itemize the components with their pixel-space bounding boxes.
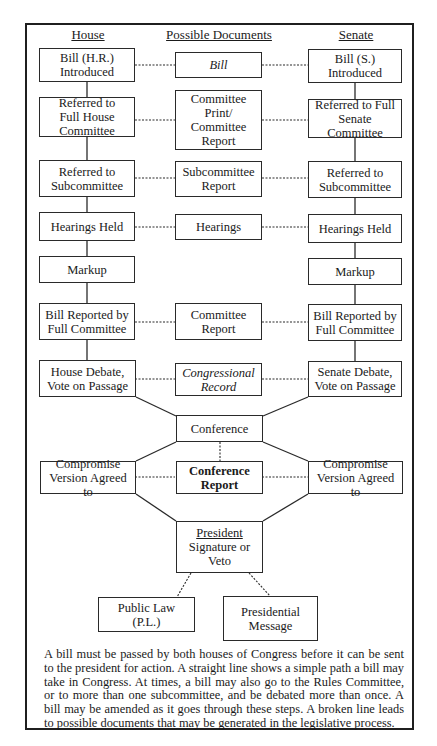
box-text: Introduced [328,66,382,80]
box-text: Report [191,134,247,148]
box-title: President [189,526,250,540]
box-text: (P.L.) [118,615,175,629]
doc-subcommittee-report: SubcommitteeReport [175,161,262,197]
box-text: Conference [191,422,249,436]
box-text: Bill Reported by [313,309,396,323]
box-text: Compromise [311,457,400,471]
box-text: Bill [209,58,227,72]
box-text: Markup [67,263,107,277]
public-law: Public Law(P.L.) [98,597,195,632]
box-text: Compromise [43,457,133,471]
box-text: Introduced [60,65,114,79]
box-text: Referred to [319,166,391,180]
doc-congressional-record: CongressionalRecord [175,363,262,396]
box-text: Senate Debate, [314,365,395,379]
box-text: Report [191,322,247,336]
box-text: Subcommittee [319,180,391,194]
house-markup: Markup [39,256,135,283]
box-text: Referred to Full [311,98,399,112]
box-text: Conference [189,464,250,478]
box-text: Hearings Held [319,222,392,236]
box-text: Hearings [196,220,241,234]
house-referred-subcommittee: Referred toSubcommittee [39,160,135,197]
senate-bill-reported: Bill Reported byFull Committee [308,304,402,341]
box-text: Bill (S.) [328,52,382,66]
box-text: Full Committee [313,323,396,337]
doc-bill: Bill [175,52,262,78]
box-text: Committee [191,92,247,106]
house-compromise-version: CompromiseVersion Agreed to [40,461,136,494]
box-text: Bill Reported by [45,308,128,322]
president: PresidentSignature orVeto [176,521,263,573]
box-text: Full Committee [45,322,128,336]
box-text: Report [189,478,250,492]
box-text: Full House [59,110,116,124]
box-text: Bill (H.R.) [60,51,114,65]
box-text: Referred to [59,96,116,110]
senate-hearings-held: Hearings Held [308,214,402,243]
box-text: Committee [191,308,247,322]
box-text: Referred to [51,165,123,179]
house-bill-introduced: Bill (H.R.)Introduced [39,48,135,82]
senate-referred-subcommittee: Referred toSubcommittee [308,161,402,198]
senate-compromise-version: CompromiseVersion Agreed to [308,461,403,494]
house-debate-vote: House Debate,Vote on Passage [39,360,136,397]
box-text: House Debate, [47,365,128,379]
conference-report: ConferenceReport [176,461,263,494]
doc-committee-report: CommitteeReport [175,303,262,340]
box-text: Public Law [118,601,175,615]
presidential-message: PresidentialMessage [223,596,318,641]
box-text: Subcommittee [51,179,123,193]
box-text: Report [182,179,254,193]
caption-text: A bill must be passed by both houses of … [44,648,404,731]
box-text: Committee [59,124,116,138]
box-text: Congressional [182,366,254,380]
doc-hearings: Hearings [175,214,262,240]
box-text: Record [182,380,254,394]
box-text: Vote on Passage [314,379,395,393]
box-text: Message [241,619,300,633]
box-text: Version Agreed to [311,471,400,499]
conference: Conference [176,415,263,442]
box-text: Markup [335,265,375,279]
senate-referred-full-committee: Referred to FullSenate Committee [308,99,402,138]
house-bill-reported: Bill Reported byFull Committee [39,303,135,340]
box-text: Subcommittee [182,165,254,179]
header-senate: Senate [320,27,392,43]
box-text: Presidential [241,605,300,619]
header-possible-documents: Possible Documents [160,27,278,43]
box-text: Version Agreed to [43,471,133,499]
box-text: Vote on Passage [47,379,128,393]
header-house: House [52,27,124,43]
box-text: Veto [189,554,250,568]
senate-bill-introduced: Bill (S.)Introduced [308,49,402,83]
house-hearings-held: Hearings Held [39,212,135,241]
box-text: Hearings Held [51,220,124,234]
box-text: Committee [191,120,247,134]
house-referred-full-committee: Referred toFull HouseCommittee [39,97,135,137]
senate-debate-vote: Senate Debate,Vote on Passage [308,361,402,397]
box-text: Senate Committee [311,112,399,140]
senate-markup: Markup [308,258,402,285]
doc-committee-print-report: CommitteePrint/CommitteeReport [175,90,262,150]
box-text: Print/ [191,106,247,120]
box-text: Signature or [189,540,250,554]
